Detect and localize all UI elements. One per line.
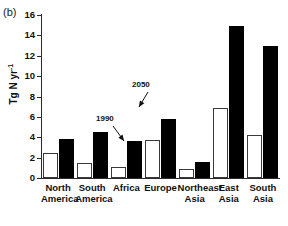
figure-panel-b: (b) Tg N yr-1 0246810121416 NorthAmerica… [0, 0, 288, 226]
bar-1990-europe [145, 140, 160, 178]
x-axis-label-line: Asia [246, 193, 280, 204]
bar-2050-north-america [59, 139, 74, 178]
y-axis-tick-mark [37, 158, 41, 159]
bar-1990-south-asia [247, 135, 262, 178]
bar-1990-east-asia [213, 108, 228, 178]
bar-2050-europe [161, 119, 176, 178]
x-axis-label-line: America [41, 193, 75, 204]
y-axis-title-exponent: -1 [7, 64, 14, 70]
x-axis-label-line: East [212, 182, 246, 193]
y-axis-tick-label: 10 [24, 70, 35, 81]
bar-1990-northeast-asia [179, 169, 194, 178]
bar-2050-east-asia [229, 26, 244, 178]
bar-group [43, 14, 74, 178]
bar-group [179, 14, 210, 178]
x-axis-line [41, 178, 280, 179]
y-axis-tick-mark [37, 35, 41, 36]
y-axis-title-text: Tg N yr [8, 70, 19, 104]
y-axis-tick-mark [37, 97, 41, 98]
y-axis-tick-label: 16 [24, 9, 35, 20]
bar-group [247, 14, 278, 178]
bar-2050-south-america [93, 132, 108, 178]
y-axis-tick-label: 14 [24, 29, 35, 40]
y-axis-tick-label: 2 [30, 152, 35, 163]
y-axis-tick-label: 4 [30, 131, 35, 142]
y-axis-tick-label: 6 [30, 111, 35, 122]
x-axis-label-line: Europe [143, 182, 177, 193]
y-axis-title: Tg N yr-1 [7, 49, 19, 119]
x-axis-label-europe: Europe [143, 182, 177, 193]
y-axis-tick-mark [37, 178, 41, 179]
y-axis-tick-mark [37, 15, 41, 16]
y-axis-tick-label: 0 [30, 172, 35, 183]
x-axis-label-east-asia: EastAsia [212, 182, 246, 204]
bar-1990-africa [111, 167, 126, 178]
bar-group [213, 14, 244, 178]
x-axis-label-line: America [75, 193, 109, 204]
x-axis-label-line: North [41, 182, 75, 193]
x-axis-label-line: South [75, 182, 109, 193]
y-axis-tick-label: 8 [30, 91, 35, 102]
panel-label: (b) [3, 6, 16, 18]
bar-2050-africa [127, 141, 142, 178]
x-axis-label-north-america: NorthAmerica [41, 182, 75, 204]
y-axis-tick-mark [37, 117, 41, 118]
x-axis-label-line: Africa [109, 182, 143, 193]
x-axis-label-south-america: SouthAmerica [75, 182, 109, 204]
y-axis-tick-label: 12 [24, 50, 35, 61]
annotation-label-2050: 2050 [132, 80, 150, 89]
x-axis-label-line: Asia [212, 193, 246, 204]
bar-group [77, 14, 108, 178]
x-axis-label-africa: Africa [109, 182, 143, 193]
bar-group [111, 14, 142, 178]
y-axis-tick-mark [37, 56, 41, 57]
x-axis-label-line: South [246, 182, 280, 193]
bar-1990-south-america [77, 163, 92, 178]
y-axis-tick-mark [37, 76, 41, 77]
bar-1990-north-america [43, 153, 58, 178]
x-axis-label-northeast-asia: NortheastAsia [178, 182, 212, 204]
annotation-label-1990: 1990 [96, 114, 114, 123]
bar-2050-northeast-asia [195, 162, 210, 178]
y-axis-tick-mark [37, 137, 41, 138]
x-axis-label-south-asia: SouthAsia [246, 182, 280, 204]
plot-area: 0246810121416 NorthAmericaSouthAmericaAf… [41, 14, 280, 179]
x-axis-label-line: Asia [178, 193, 212, 204]
bar-group [145, 14, 176, 178]
bar-2050-south-asia [263, 46, 278, 178]
x-axis-label-line: Northeast [178, 182, 212, 193]
